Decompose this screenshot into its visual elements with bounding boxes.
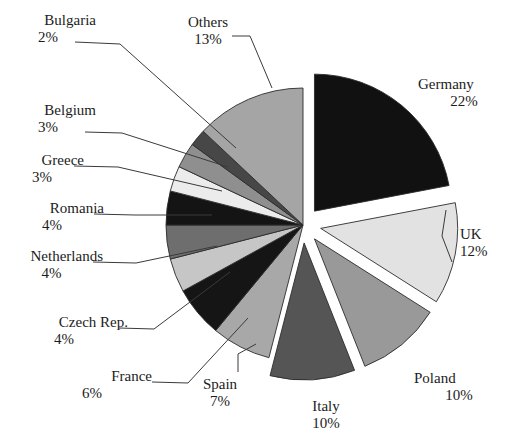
pie-slice-group: [166, 74, 458, 380]
pie-label-germany: Germany 22%: [418, 76, 510, 110]
pie-label-greece-name: Greece: [0, 152, 84, 169]
pie-label-romania-pct: 4%: [0, 217, 104, 234]
pie-label-italy-name: Italy: [292, 398, 360, 415]
pie-label-france-pct: 6%: [32, 385, 152, 402]
pie-label-france: France 6%: [32, 368, 152, 402]
pie-label-czech-pct: 4%: [0, 331, 128, 348]
pie-label-germany-pct: 22%: [418, 93, 510, 110]
pie-label-others: Others 13%: [172, 14, 244, 48]
pie-label-spain: Spain 7%: [178, 376, 262, 410]
pie-label-poland: Poland 10%: [414, 370, 504, 404]
pie-label-netherlands-name: Netherlands: [0, 248, 103, 265]
pie-label-uk-pct: 12%: [460, 243, 510, 260]
pie-label-spain-name: Spain: [178, 376, 262, 393]
pie-label-romania: Romania 4%: [0, 200, 104, 234]
pie-label-czech: Czech Rep. 4%: [0, 314, 128, 348]
pie-label-italy-pct: 10%: [292, 415, 360, 432]
pie-label-italy: Italy 10%: [292, 398, 360, 432]
pie-label-bulgaria: Bulgaria 2%: [0, 12, 96, 46]
pie-label-others-pct: 13%: [172, 31, 244, 48]
pie-label-spain-pct: 7%: [178, 393, 262, 410]
pie-label-germany-name: Germany: [418, 76, 510, 93]
pie-label-romania-name: Romania: [0, 200, 104, 217]
pie-label-bulgaria-pct: 2%: [0, 29, 96, 46]
pie-label-greece: Greece 3%: [0, 152, 84, 186]
pie-label-poland-name: Poland: [414, 370, 504, 387]
pie-label-uk: UK 12%: [460, 226, 510, 260]
pie-label-belgium: Belgium 3%: [0, 102, 96, 136]
pie-label-belgium-name: Belgium: [0, 102, 96, 119]
pie-label-poland-pct: 10%: [414, 387, 504, 404]
pie-label-france-name: France: [32, 368, 152, 385]
pie-label-czech-name: Czech Rep.: [0, 314, 128, 331]
pie-chart-figure: Bulgaria 2% Belgium 3% Greece 3% Romania…: [0, 0, 510, 448]
pie-label-netherlands: Netherlands 4%: [0, 248, 103, 282]
pie-label-greece-pct: 3%: [0, 169, 84, 186]
pie-label-belgium-pct: 3%: [0, 119, 96, 136]
pie-label-bulgaria-name: Bulgaria: [0, 12, 96, 29]
pie-label-uk-name: UK: [460, 226, 510, 243]
pie-label-netherlands-pct: 4%: [0, 265, 103, 282]
pie-label-others-name: Others: [172, 14, 244, 31]
